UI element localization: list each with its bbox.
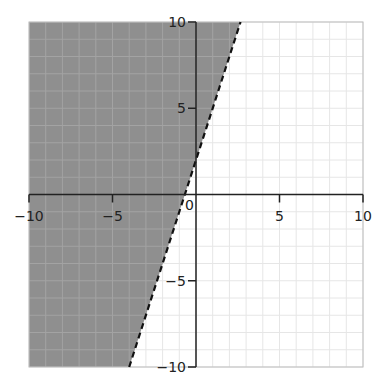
x-tick-label: 10 xyxy=(354,208,372,224)
y-tick-label: −10 xyxy=(156,359,186,375)
x-tick-label: −10 xyxy=(14,208,44,224)
inequality-graph: −10−50510−10−5510 xyxy=(0,0,384,383)
y-tick-label: 5 xyxy=(177,100,186,116)
y-tick-label: 10 xyxy=(168,14,186,30)
x-tick-label: 0 xyxy=(185,197,194,213)
x-tick-label: 5 xyxy=(275,208,284,224)
y-tick-label: −5 xyxy=(165,273,186,289)
x-tick-label: −5 xyxy=(102,208,123,224)
